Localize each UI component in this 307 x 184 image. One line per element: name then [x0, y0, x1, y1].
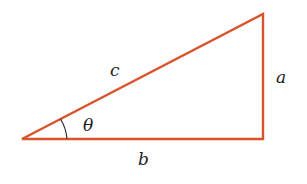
adjacent-side-label-b: b: [138, 149, 149, 169]
angle-theta-arc: [61, 119, 68, 139]
right-triangle-diagram: c a b θ: [0, 0, 307, 184]
triangle-shape: [22, 14, 263, 139]
angle-label-theta: θ: [83, 115, 93, 135]
hypotenuse-label-c: c: [110, 60, 120, 80]
opposite-side-label-a: a: [276, 67, 286, 87]
